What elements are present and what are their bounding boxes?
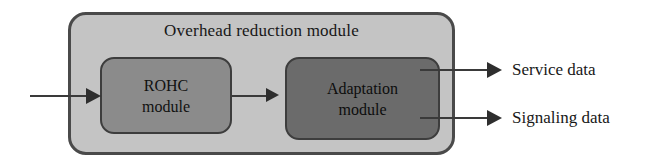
input-arrow-icon bbox=[86, 88, 101, 104]
service-data-label: Service data bbox=[512, 59, 596, 81]
input-connector-line bbox=[30, 95, 92, 97]
signaling-data-connector-line bbox=[420, 117, 492, 119]
signaling-data-arrow-icon bbox=[487, 110, 502, 126]
signaling-data-label: Signaling data bbox=[512, 107, 610, 129]
diagram-canvas: Overhead reduction module ROHC module Ad… bbox=[0, 0, 657, 167]
service-data-connector-line bbox=[420, 69, 492, 71]
rohc-module-box: ROHC module bbox=[100, 57, 232, 134]
adaptation-module-box: Adaptation module bbox=[285, 57, 440, 140]
service-data-arrow-icon bbox=[487, 62, 502, 78]
rohc-to-adaptation-arrow-icon bbox=[266, 88, 279, 102]
rohc-module-label: ROHC module bbox=[142, 75, 190, 117]
adaptation-module-label: Adaptation module bbox=[327, 78, 398, 120]
overhead-reduction-module-title: Overhead reduction module bbox=[68, 20, 455, 42]
